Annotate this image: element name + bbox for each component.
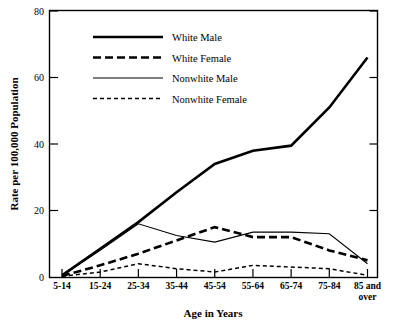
x-tick-label: 65-74 [280,281,302,291]
legend-label: Nonwhite Female [172,94,247,105]
y-tick-label: 20 [34,205,44,216]
x-tick-label: 15-24 [89,281,111,291]
y-tick-label: 80 [34,6,44,17]
x-tick-label: 75-84 [318,281,340,291]
x-tick-label: 55-64 [242,281,264,291]
y-tick-label: 40 [34,139,44,150]
y-axis-title: Rate per 100,000 Population [8,77,20,210]
x-tick-label: 5-14 [53,281,71,291]
y-tick-label: 0 [39,272,44,283]
legend-label: White Male [172,32,222,43]
chart-background [0,0,395,323]
legend-label: Nonwhite Male [172,73,238,84]
x-tick-label: 45-54 [204,281,226,291]
line-chart: 020406080 5-1415-2425-3435-4445-5455-646… [0,0,395,323]
x-axis-title: Age in Years [184,307,244,319]
legend-label: White Female [172,53,232,64]
x-tick-label: 35-44 [165,281,187,291]
chart-container: 020406080 5-1415-2425-3435-4445-5455-646… [0,0,395,323]
y-tick-label: 60 [34,72,44,83]
x-tick-label: 25-34 [127,281,149,291]
